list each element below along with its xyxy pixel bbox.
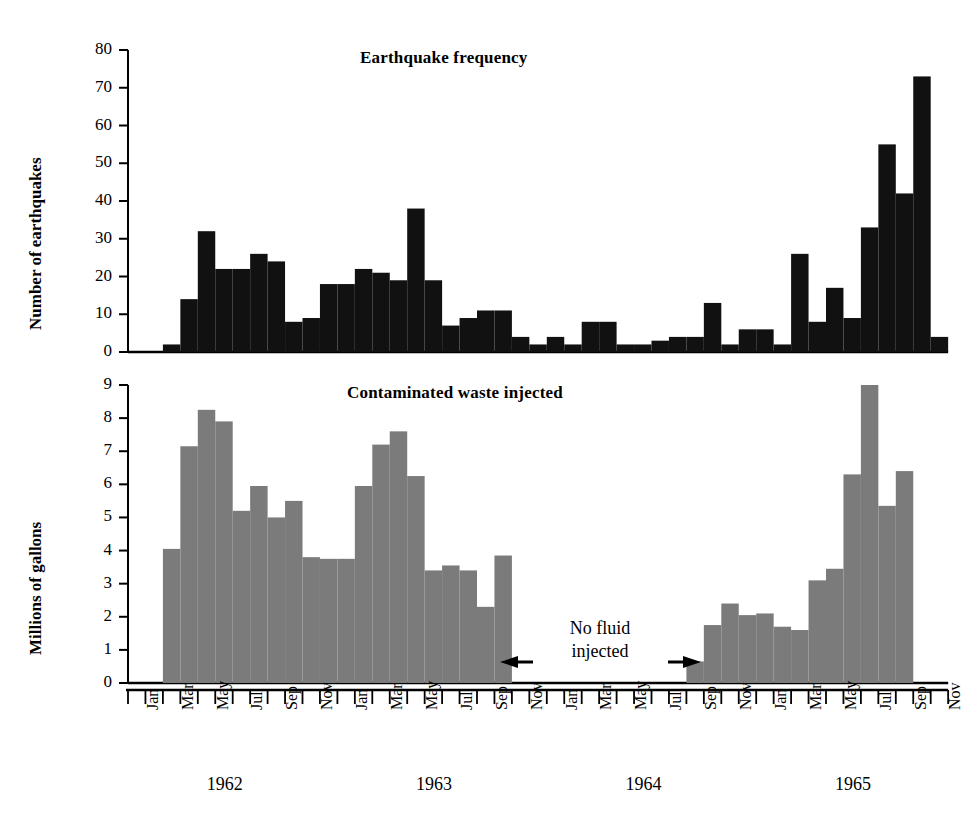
x-axis-month-label: Jan xyxy=(353,689,371,710)
earthquake-bar xyxy=(425,280,442,352)
waste-bar xyxy=(198,410,215,683)
earthquake-bar xyxy=(652,341,669,352)
waste-bar xyxy=(233,511,250,683)
top-y-tick-label: 50 xyxy=(66,152,112,172)
no-fluid-arrows xyxy=(500,656,701,668)
earthquake-bar xyxy=(442,326,459,352)
top-y-tick-label: 10 xyxy=(66,303,112,323)
earthquake-bar xyxy=(756,329,773,352)
waste-bar xyxy=(337,559,354,683)
waste-bar xyxy=(477,607,494,683)
x-axis-month-label: Jul xyxy=(667,691,685,710)
earthquake-bar xyxy=(861,227,878,352)
waste-bar xyxy=(826,569,843,683)
earthquake-bar xyxy=(285,322,302,352)
x-axis-month-label: May xyxy=(632,681,650,710)
x-axis-month-label: Sep xyxy=(493,686,511,710)
waste-bar xyxy=(896,471,913,683)
waste-bar xyxy=(756,613,773,683)
waste-bar xyxy=(250,486,267,683)
waste-bar xyxy=(285,501,302,683)
waste-bar xyxy=(303,557,320,683)
earthquake-bar xyxy=(303,318,320,352)
earthquake-bar xyxy=(215,269,232,352)
earthquake-bar xyxy=(634,344,651,352)
x-axis-month-label: Mar xyxy=(388,683,406,710)
waste-bar xyxy=(390,431,407,683)
waste-bar xyxy=(809,580,826,683)
x-axis-month-label: Sep xyxy=(702,686,720,710)
earthquake-bar xyxy=(739,329,756,352)
earthquake-bar xyxy=(791,254,808,352)
earthquake-bar xyxy=(826,288,843,352)
earthquake-bar xyxy=(320,284,337,352)
top-y-tick-label: 60 xyxy=(66,115,112,135)
bottom-chart-bars xyxy=(163,385,913,683)
x-axis-month-label: Jul xyxy=(458,691,476,710)
bottom-y-tick-label: 4 xyxy=(66,540,112,560)
earthquake-bar xyxy=(564,344,581,352)
earthquake-bar xyxy=(547,337,564,352)
x-axis-month-label: Jan xyxy=(144,689,162,710)
x-axis-month-label: Sep xyxy=(912,686,930,710)
earthquake-bar xyxy=(617,344,634,352)
earthquake-bar xyxy=(494,310,511,352)
x-axis-month-label: Mar xyxy=(179,683,197,710)
bottom-y-tick-label: 0 xyxy=(66,672,112,692)
x-axis-month-label: Mar xyxy=(597,683,615,710)
top-y-tick-label: 0 xyxy=(66,341,112,361)
top-y-tick-label: 30 xyxy=(66,228,112,248)
earthquake-bar xyxy=(163,344,180,352)
x-axis-month-label: Nov xyxy=(318,682,336,710)
x-axis-month-label: Jul xyxy=(248,691,266,710)
x-axis-month-label: Nov xyxy=(737,682,755,710)
bottom-y-tick-label: 8 xyxy=(66,407,112,427)
earthquake-bar xyxy=(407,209,424,352)
top-chart-bars xyxy=(163,76,948,352)
earthquake-bar xyxy=(774,344,791,352)
earthquake-bar xyxy=(233,269,250,352)
bottom-y-tick-label: 1 xyxy=(66,639,112,659)
bottom-y-tick-label: 3 xyxy=(66,573,112,593)
bottom-y-tick-label: 2 xyxy=(66,606,112,626)
waste-bar xyxy=(372,445,389,683)
earthquake-bar xyxy=(931,337,948,352)
top-y-tick-label: 80 xyxy=(66,39,112,59)
earthquake-waste-figure: Earthquake frequency Contaminated waste … xyxy=(0,0,972,820)
waste-bar xyxy=(320,559,337,683)
waste-bar xyxy=(774,627,791,683)
x-axis-month-label: Mar xyxy=(807,683,825,710)
x-axis-month-label: Sep xyxy=(283,686,301,710)
earthquake-bar xyxy=(721,344,738,352)
waste-bar xyxy=(355,486,372,683)
waste-bar xyxy=(407,476,424,683)
earthquake-bar xyxy=(809,322,826,352)
x-axis-month-label: Nov xyxy=(528,682,546,710)
top-y-tick-label: 20 xyxy=(66,266,112,286)
earthquake-bar xyxy=(250,254,267,352)
waste-bar xyxy=(180,446,197,683)
waste-bar xyxy=(425,570,442,683)
earthquake-bar xyxy=(529,344,546,352)
earthquake-bar xyxy=(198,231,215,352)
waste-bar xyxy=(163,549,180,683)
top-y-tick-label: 40 xyxy=(66,190,112,210)
x-axis-month-label: Nov xyxy=(946,682,964,710)
waste-bar xyxy=(268,517,285,683)
waste-bar xyxy=(215,421,232,683)
earthquake-bar xyxy=(512,337,529,352)
earthquake-bar xyxy=(843,318,860,352)
earthquake-bar xyxy=(372,273,389,352)
earthquake-bar xyxy=(390,280,407,352)
earthquake-bar xyxy=(268,261,285,352)
x-axis-year-label: 1962 xyxy=(207,774,243,795)
earthquake-bar xyxy=(704,303,721,352)
waste-bar xyxy=(791,630,808,683)
x-axis-month-label: Jan xyxy=(563,689,581,710)
earthquake-bar xyxy=(477,310,494,352)
earthquake-bar xyxy=(599,322,616,352)
bottom-y-tick-label: 7 xyxy=(66,440,112,460)
x-axis-month-label: May xyxy=(842,681,860,710)
earthquake-bar xyxy=(337,284,354,352)
waste-bar xyxy=(739,615,756,683)
